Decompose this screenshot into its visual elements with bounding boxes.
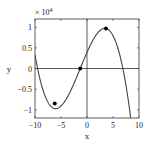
- cubic-function-chart: −10−50510−1−0.500.51 x y × 104: [0, 0, 153, 144]
- x-tick-label: 5: [111, 121, 115, 130]
- y-multiplier-label: × 104: [35, 7, 53, 17]
- x-tick-label: −10: [29, 121, 42, 130]
- y-tick-label: 0.5: [22, 44, 32, 53]
- data-marker: [53, 102, 57, 106]
- y-tick-label: −1: [23, 106, 32, 115]
- x-tick-label: 10: [135, 121, 143, 130]
- y-tick-label: 1: [28, 23, 32, 32]
- data-marker: [78, 67, 82, 71]
- y-axis-label: y: [7, 64, 12, 74]
- x-tick-label: 0: [85, 121, 89, 130]
- x-axis-label: x: [85, 131, 90, 141]
- data-marker: [104, 26, 108, 30]
- y-tick-label: −0.5: [17, 85, 32, 94]
- x-tick-label: −5: [57, 121, 66, 130]
- y-tick-label: 0: [28, 65, 32, 74]
